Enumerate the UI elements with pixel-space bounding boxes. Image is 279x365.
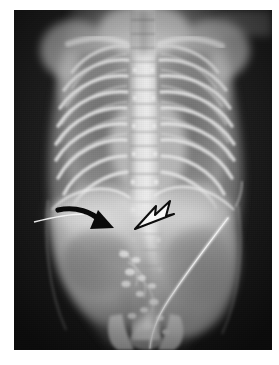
page-root: Anteroposterior chest and abdomen radiog… bbox=[0, 0, 279, 365]
annotation-layer bbox=[14, 10, 272, 350]
solid-black-curved-arrow bbox=[34, 209, 114, 229]
radiograph-film bbox=[14, 10, 272, 350]
open-outline-arrowhead bbox=[135, 201, 174, 229]
